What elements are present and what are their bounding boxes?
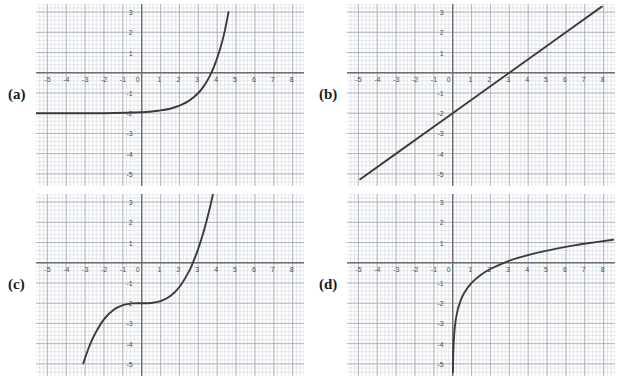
x-tick-label: -4	[63, 76, 69, 83]
panel-a-svg: -5-4-3-2-1012345678321-1-2-3-4-5	[36, 4, 304, 186]
x-tick-label: -2	[101, 76, 107, 83]
panel-d: (d) -5-4-3-2-1012345678321-1-2-3-4-5	[311, 190, 623, 381]
panel-c-label: (c)	[8, 276, 25, 293]
x-tick-label: -1	[120, 266, 126, 273]
major-gridlines	[347, 4, 615, 186]
y-tick-label: -2	[437, 110, 443, 117]
x-tick-label: 1	[469, 266, 473, 273]
panel-d-plot: -5-4-3-2-1012345678321-1-2-3-4-5	[347, 194, 615, 376]
panel-b-label: (b)	[319, 86, 337, 103]
panel-d-svg: -5-4-3-2-1012345678321-1-2-3-4-5	[347, 194, 615, 376]
x-tick-label: -5	[44, 266, 50, 273]
x-tick-label: 1	[158, 76, 162, 83]
tick-labels: -5-4-3-2-1012345678321-1-2-3-4-5	[44, 9, 293, 178]
y-tick-label: 2	[129, 219, 133, 226]
y-tick-label: 2	[440, 219, 444, 226]
x-tick-label: 8	[601, 266, 605, 273]
x-tick-label: 5	[544, 266, 548, 273]
x-tick-label: 5	[233, 266, 237, 273]
y-tick-label: 3	[440, 199, 444, 206]
logarithmic-curve	[453, 240, 613, 373]
y-tick-label: -5	[437, 171, 443, 178]
x-tick-label: -3	[82, 76, 88, 83]
y-tick-label: 1	[440, 240, 444, 247]
y-tick-label: -4	[437, 341, 443, 348]
x-tick-label: -3	[393, 76, 399, 83]
x-tick-label: 6	[563, 76, 567, 83]
y-tick-label: -5	[126, 361, 132, 368]
x-tick-label: 3	[506, 76, 510, 83]
axes	[347, 194, 615, 376]
y-tick-label: -2	[126, 110, 132, 117]
x-tick-label: -1	[431, 266, 437, 273]
axes	[347, 4, 615, 186]
x-tick-label: 4	[525, 266, 529, 273]
y-tick-label: 3	[440, 9, 444, 16]
panel-d-label: (d)	[319, 276, 337, 293]
panel-b-plot: -5-4-3-2-1012345678321-1-2-3-4-5	[347, 4, 615, 186]
logarithmic-curve-group	[453, 240, 613, 373]
x-tick-label: -2	[101, 266, 107, 273]
x-tick-label: 3	[195, 266, 199, 273]
y-tick-label: 1	[129, 240, 133, 247]
x-tick-label: -3	[82, 266, 88, 273]
x-tick-label: 4	[214, 266, 218, 273]
x-tick-label: 8	[290, 76, 294, 83]
panel-c-plot: -5-4-3-2-1012345678321-1-2-3-4-5	[36, 194, 304, 376]
y-tick-label: -1	[437, 280, 443, 287]
y-tick-label: -3	[126, 320, 132, 327]
y-tick-label: 2	[440, 29, 444, 36]
y-tick-label: 1	[129, 50, 133, 57]
x-tick-label: -3	[393, 266, 399, 273]
x-tick-label: -2	[412, 76, 418, 83]
x-tick-label: -1	[120, 76, 126, 83]
x-tick-label: 6	[252, 76, 256, 83]
y-tick-label: -1	[126, 280, 132, 287]
panel-b-svg: -5-4-3-2-1012345678321-1-2-3-4-5	[347, 4, 615, 186]
x-tick-label: 6	[563, 266, 567, 273]
x-tick-label: 2	[487, 76, 491, 83]
x-tick-label: -2	[412, 266, 418, 273]
x-tick-label: 3	[506, 266, 510, 273]
y-tick-label: -5	[437, 361, 443, 368]
y-tick-label: -3	[126, 130, 132, 137]
minor-gridlines	[347, 194, 615, 376]
x-tick-label: 2	[176, 76, 180, 83]
y-tick-label: -2	[437, 300, 443, 307]
x-tick-label: 2	[176, 266, 180, 273]
y-tick-label: -1	[126, 90, 132, 97]
x-tick-label: 6	[252, 266, 256, 273]
panel-a: (a) -5-4-3-2-1012345678321-1-2-3-4-5	[0, 0, 311, 190]
x-tick-label: 0	[136, 76, 140, 83]
x-tick-label: 5	[544, 76, 548, 83]
x-tick-label: 3	[195, 76, 199, 83]
minor-gridlines	[36, 4, 304, 186]
graph-sheet: (a) -5-4-3-2-1012345678321-1-2-3-4-5 (b)…	[0, 0, 623, 381]
y-tick-label: -4	[126, 151, 132, 158]
tick-labels: -5-4-3-2-1012345678321-1-2-3-4-5	[44, 199, 293, 368]
x-tick-label: -1	[431, 76, 437, 83]
x-tick-label: 0	[447, 266, 451, 273]
x-tick-label: 4	[214, 76, 218, 83]
x-tick-label: 4	[525, 76, 529, 83]
axes	[36, 194, 304, 376]
y-tick-label: 1	[440, 50, 444, 57]
x-tick-label: 8	[601, 76, 605, 83]
x-tick-label: 8	[290, 266, 294, 273]
panel-c: (c) -5-4-3-2-1012345678321-1-2-3-4-5	[0, 190, 311, 381]
major-gridlines	[36, 4, 304, 186]
y-tick-label: -4	[437, 151, 443, 158]
x-tick-label: 5	[233, 76, 237, 83]
panel-a-plot: -5-4-3-2-1012345678321-1-2-3-4-5	[36, 4, 304, 186]
x-tick-label: -4	[63, 266, 69, 273]
panel-c-svg: -5-4-3-2-1012345678321-1-2-3-4-5	[36, 194, 304, 376]
x-tick-label: -5	[355, 76, 361, 83]
x-tick-label: 0	[136, 266, 140, 273]
x-tick-label: -5	[355, 266, 361, 273]
x-tick-label: 7	[271, 266, 275, 273]
major-gridlines	[347, 194, 615, 376]
minor-gridlines	[347, 4, 615, 186]
x-tick-label: 7	[271, 76, 275, 83]
panel-a-label: (a)	[8, 86, 26, 103]
y-tick-label: 3	[129, 199, 133, 206]
